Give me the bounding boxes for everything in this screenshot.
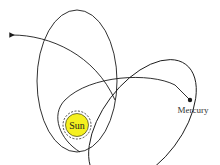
mercury-dot xyxy=(188,98,192,102)
mercury-label: Mercury xyxy=(178,105,209,115)
trajectory-arrow xyxy=(12,35,115,100)
orbit-diagram: Sun Mercury xyxy=(0,0,220,165)
sun-label: Sun xyxy=(69,120,85,131)
orbit-2 xyxy=(67,40,218,165)
